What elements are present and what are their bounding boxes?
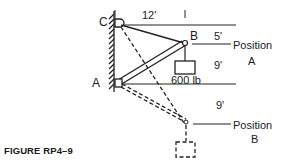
dim-9ft-lower: 9' (216, 99, 224, 111)
position-a-letter: A (248, 55, 255, 67)
dim-12ft: 12' (142, 9, 156, 21)
hinge-a (115, 79, 122, 87)
wall (109, 11, 114, 92)
label-c: C (99, 16, 108, 28)
dim-5ft: 5' (214, 30, 222, 42)
structure-drawing (0, 0, 285, 168)
dim-9ft-upper: 9' (214, 59, 222, 71)
joint-b-lowered (184, 120, 188, 124)
figure-caption: FIGURE RP4–9 (4, 145, 73, 156)
position-b-letter: B (251, 133, 258, 145)
load-label: 600 lb (171, 74, 201, 86)
joint-b (183, 41, 188, 46)
label-b: B (190, 30, 198, 42)
weight-box (175, 61, 195, 74)
position-b-label: Position (233, 119, 272, 131)
position-a-label: Position (233, 39, 272, 51)
label-a: A (92, 77, 100, 89)
